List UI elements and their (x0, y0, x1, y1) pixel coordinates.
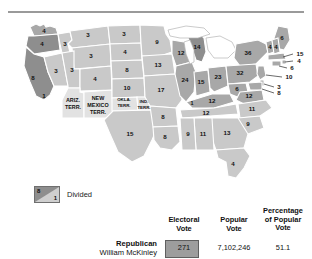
label-indian-territory-line2: TERR. (137, 105, 150, 110)
leader-new-jersey (266, 75, 282, 77)
lake-superior (168, 26, 210, 38)
leader-connecticut (279, 66, 287, 68)
value-california: 8 (31, 74, 35, 81)
value-virginia: 12 (246, 92, 253, 99)
label-new-mexico-territory-line1: NEW (92, 95, 105, 101)
value-washington: 4 (42, 27, 46, 34)
value-wisconsin: 12 (178, 49, 185, 56)
table-row: Republican William McKinley 271 7,102,24… (0, 238, 312, 259)
value-kentucky: 12 (209, 97, 216, 104)
state-massachusetts (268, 53, 286, 60)
value-pennsylvania: 32 (237, 69, 244, 76)
value-georgia: 13 (224, 129, 231, 136)
value-maryland: 8 (277, 89, 281, 96)
value-south-carolina: 9 (246, 120, 250, 127)
value-ohio: 23 (215, 73, 222, 80)
value-minnesota: 9 (155, 38, 159, 45)
value-illinois: 24 (182, 76, 189, 83)
label-new-mexico-territory-line3: TERR. (90, 109, 107, 115)
value-idaho: 3 (63, 40, 67, 47)
value-new-york: 36 (245, 49, 252, 56)
value-tennessee: 12 (203, 109, 210, 116)
value-nevada: 3 (54, 67, 58, 74)
election-map-figure: 4 4 8 1 3 3 3 3 3 4 3 4 8 10 15 9 13 17 … (0, 0, 312, 259)
value-west-virginia: 6 (235, 85, 239, 92)
column-header-percentage: Percentage of Popular Vote (258, 207, 308, 233)
lake-huron-erie (206, 36, 236, 58)
divided-swatch: 8 1 (34, 186, 60, 203)
column-header-electoral-vote: Electoral Vote (160, 216, 208, 233)
column-header-percentage-line3: Vote (258, 224, 308, 233)
value-oregon: 4 (40, 40, 44, 47)
divided-swatch-lower-value: 1 (54, 194, 57, 202)
value-maine: 6 (280, 34, 284, 41)
value-california-divided: 1 (42, 92, 46, 99)
divided-legend-label: Divided (67, 190, 92, 199)
value-percentage-popular-vote: 51.1 (258, 243, 308, 252)
value-nebraska: 8 (125, 66, 129, 73)
value-texas: 15 (127, 130, 134, 137)
value-new-hampshire: 4 (274, 43, 278, 50)
column-header-popular-vote: Popular Vote (212, 216, 256, 233)
value-electoral-vote: 271 (160, 243, 208, 252)
leader-maryland (262, 89, 274, 93)
column-header-electoral-vote-line2: Vote (160, 225, 208, 234)
value-arkansas: 8 (161, 113, 165, 120)
label-new-mexico-territory-line2: MEXICO (87, 102, 108, 108)
party-name: Republican (57, 239, 157, 248)
results-table-header: Electoral Vote Popular Vote Percentage o… (0, 206, 312, 236)
value-louisiana: 8 (163, 133, 167, 140)
value-rhode-island: 4 (297, 57, 301, 64)
label-arizona-territory-line1: ARIZ. (66, 97, 81, 103)
candidate-name: William McKinley (57, 248, 157, 257)
column-header-popular-vote-line2: Vote (212, 225, 256, 234)
value-massachusetts: 15 (297, 50, 304, 57)
leader-delaware (264, 84, 274, 87)
label-arizona-territory-line2: TERR. (65, 104, 82, 110)
value-indiana: 15 (198, 78, 205, 85)
value-colorado: 4 (93, 75, 97, 82)
party-candidate-block: Republican William McKinley (57, 239, 157, 257)
value-michigan: 14 (194, 43, 201, 50)
label-oklahoma-territory-line2: TERR. (117, 103, 130, 108)
value-popular-vote: 7,102,246 (208, 243, 260, 252)
value-wyoming: 3 (89, 52, 93, 59)
value-montana: 3 (86, 31, 90, 38)
value-kentucky-divided: 1 (191, 100, 194, 106)
state-maryland (248, 82, 262, 90)
divided-swatch-upper-value: 8 (37, 187, 40, 195)
value-north-dakota: 3 (122, 30, 126, 37)
value-south-dakota: 4 (123, 48, 127, 55)
value-kansas: 10 (124, 84, 131, 91)
state-connecticut (272, 61, 281, 66)
value-north-carolina: 11 (249, 105, 256, 112)
value-mississippi: 9 (186, 130, 190, 137)
value-utah: 3 (70, 66, 74, 73)
label-indian-territory-line1: IND. (140, 99, 149, 104)
state-new-jersey (257, 66, 266, 80)
value-vermont: 4 (268, 43, 272, 50)
value-new-jersey: 10 (286, 73, 293, 80)
value-connecticut: 6 (290, 64, 294, 71)
value-florida: 4 (231, 160, 235, 167)
legend-divided: 8 1 Divided (34, 186, 92, 203)
value-alabama: 11 (200, 130, 207, 137)
value-missouri: 17 (158, 86, 165, 93)
results-table: Electoral Vote Popular Vote Percentage o… (0, 206, 312, 259)
value-iowa: 13 (155, 61, 162, 68)
us-electoral-map: 4 4 8 1 3 3 3 3 3 4 3 4 8 10 15 9 13 17 … (0, 0, 312, 200)
label-oklahoma-territory-line1: OKLA. (117, 97, 131, 102)
